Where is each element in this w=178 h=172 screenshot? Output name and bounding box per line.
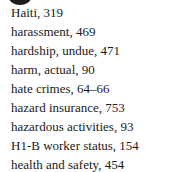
index-term: health and safety, 454 xyxy=(11,157,124,172)
index-entry: harm, actual, 90 xyxy=(11,60,178,79)
index-term: hate crimes, 64–66 xyxy=(11,81,110,96)
index-entry: hazard insurance, 753 xyxy=(11,98,178,117)
index-entry: H1-B worker status, 154 xyxy=(11,136,178,155)
index-term: H1-B worker status, 154 xyxy=(11,138,139,153)
index-term: harassment, 469 xyxy=(11,24,95,39)
index-term: hazard insurance, 753 xyxy=(11,100,125,115)
index-entry: harassment, 469 xyxy=(11,22,178,41)
index-term: hazardous activities, 93 xyxy=(11,119,133,134)
index-list: Haiti, 319 harassment, 469 hardship, und… xyxy=(11,3,178,172)
index-term: harm, actual, 90 xyxy=(11,62,95,77)
index-entry: hazardous activities, 93 xyxy=(11,117,178,136)
index-entry: Haiti, 319 xyxy=(11,3,178,22)
index-term: hardship, undue, 471 xyxy=(11,43,120,58)
index-entry: hate crimes, 64–66 xyxy=(11,79,178,98)
index-entry: health and safety, 454 xyxy=(11,155,178,172)
index-term: Haiti, 319 xyxy=(11,5,63,20)
index-entry: hardship, undue, 471 xyxy=(11,41,178,60)
